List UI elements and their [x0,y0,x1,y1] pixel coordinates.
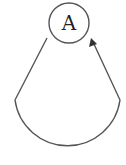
arrowhead-icon [89,38,97,47]
diagram-canvas: A [0,0,126,165]
node-a-label: A [61,11,77,35]
node-a: A [49,3,89,43]
self-loop-edge [15,38,120,146]
self-loop-path [15,38,120,146]
